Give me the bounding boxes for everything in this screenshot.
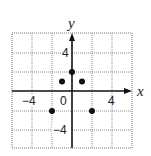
y-tick-label: −4 (53, 123, 67, 137)
x-tick-label: −4 (22, 94, 36, 108)
data-point (69, 69, 75, 75)
y-axis-arrow-icon (69, 33, 75, 41)
y-axis-label: y (66, 15, 75, 31)
x-axis-label: x (136, 83, 144, 99)
x-axis-arrow-icon (124, 88, 132, 94)
coordinate-plane: x y −4 0 4 4 −4 (0, 0, 151, 156)
data-point (59, 79, 65, 85)
data-point (89, 108, 95, 114)
data-point (79, 79, 85, 85)
x-tick-label: 4 (108, 94, 115, 108)
y-tick-label: 4 (62, 46, 69, 60)
data-point (49, 108, 55, 114)
x-tick-label: 0 (60, 94, 67, 108)
